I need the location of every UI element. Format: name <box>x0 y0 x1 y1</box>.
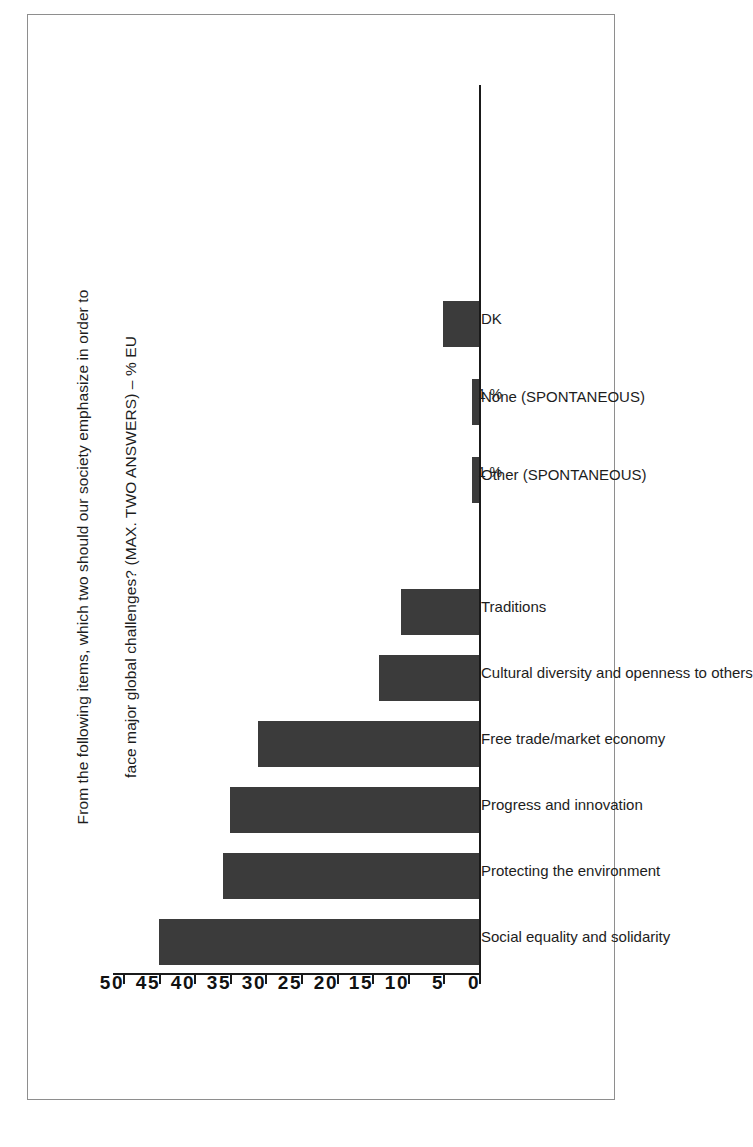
bar <box>258 721 479 767</box>
y-axis-tick-label: 30 <box>242 972 266 994</box>
category-label: Progress and innovation <box>481 797 643 812</box>
y-axis-tick-label: 50 <box>100 972 124 994</box>
bar-series: 1 %1 % <box>123 85 479 973</box>
y-axis-tick-label: 40 <box>171 972 195 994</box>
bar: 1 % <box>472 379 479 425</box>
rotated-chart-stage: From the following items, which two shou… <box>41 27 601 1087</box>
category-label: DK <box>481 311 502 326</box>
y-axis-tick-label: 10 <box>385 972 409 994</box>
bar <box>230 787 479 833</box>
plot-area: 05101520253035404550 1 %1 % <box>119 85 481 975</box>
category-label: Cultural diversity and openness to other… <box>481 665 753 680</box>
y-axis-tick-label: 5 <box>432 972 444 994</box>
y-axis-tick-label: 20 <box>313 972 337 994</box>
bar <box>223 853 479 899</box>
bar-chart: From the following items, which two shou… <box>41 27 601 1087</box>
category-label: Other (SPONTANEOUS) <box>481 467 647 482</box>
bar: 1 % <box>472 457 479 503</box>
category-label: Social equality and solidarity <box>481 929 670 944</box>
chart-title-line-1: From the following items, which two shou… <box>74 290 91 825</box>
y-axis-tick-label: 35 <box>207 972 231 994</box>
category-label: Free trade/market economy <box>481 731 665 746</box>
category-label: None (SPONTANEOUS) <box>481 389 645 404</box>
category-label: Protecting the environment <box>481 863 660 878</box>
bar <box>443 301 479 347</box>
category-axis-labels: Social equality and solidarityProtecting… <box>481 85 591 973</box>
y-axis-tick-label: 0 <box>468 972 480 994</box>
bar <box>401 589 479 635</box>
category-label: Traditions <box>481 599 546 614</box>
bar <box>379 655 479 701</box>
y-axis-tick-label: 25 <box>278 972 302 994</box>
y-axis-tick-label: 15 <box>349 972 373 994</box>
y-axis-tick-label: 45 <box>135 972 159 994</box>
page-frame: From the following items, which two shou… <box>27 14 615 1100</box>
bar <box>159 919 479 965</box>
